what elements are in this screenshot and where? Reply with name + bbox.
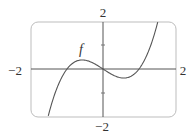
function-label: f <box>79 43 83 57</box>
x-min-label: −2 <box>8 64 22 77</box>
y-max-label: 2 <box>100 6 107 19</box>
y-min-label: −2 <box>95 120 109 133</box>
x-max-label: 2 <box>180 64 187 77</box>
plot <box>0 0 193 138</box>
